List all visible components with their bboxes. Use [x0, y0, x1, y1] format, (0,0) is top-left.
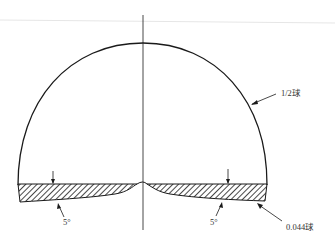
half-sphere-label: 1/2球: [281, 86, 301, 98]
center-dip: [137, 182, 147, 184]
left-angle-leader-arrow-icon: [57, 203, 64, 217]
right-angle-label: 5°: [210, 217, 218, 227]
small-sphere-label: 0.044球: [286, 220, 314, 232]
hemisphere-outline: [18, 43, 267, 185]
left-angle-label: 5°: [63, 217, 71, 227]
right-angle-leader-arrow-icon: [216, 202, 223, 216]
small-sphere-leader-arrow-icon: [257, 203, 282, 221]
left-down-arrow-icon: [51, 171, 55, 184]
right-down-arrow-icon: [226, 169, 230, 184]
faint-top-rule: [0, 20, 335, 23]
right-hatched-band: [147, 184, 267, 201]
hemisphere-diagram: [0, 0, 335, 244]
half-sphere-leader-arrow-icon: [251, 94, 276, 105]
left-hatched-band: [18, 184, 137, 202]
